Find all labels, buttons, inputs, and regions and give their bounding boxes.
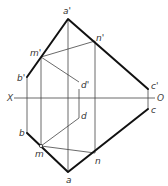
label-c: c xyxy=(151,105,156,115)
label-b-prime: b' xyxy=(17,73,25,83)
front-view-outline xyxy=(27,19,148,89)
axis-label-o: O xyxy=(157,93,164,103)
label-c-prime: c' xyxy=(151,81,158,91)
label-a: a xyxy=(66,175,72,185)
label-d-prime: d' xyxy=(81,80,89,90)
axis-label-x: X xyxy=(6,93,14,103)
line-m-prime-d-prime xyxy=(41,57,79,82)
label-m: m xyxy=(35,149,44,159)
label-m-prime: m' xyxy=(30,48,41,58)
line-m-d xyxy=(41,118,79,146)
top-view-outline xyxy=(27,109,148,172)
label-d: d xyxy=(81,111,87,121)
projection-diagram: a' b' c' d' m' n' X O a b c d m n xyxy=(0,0,168,186)
label-n: n xyxy=(95,156,101,166)
label-b: b xyxy=(19,128,25,138)
label-n-prime: n' xyxy=(96,33,104,43)
point-m-marker xyxy=(39,144,42,147)
label-a-prime: a' xyxy=(63,6,71,16)
